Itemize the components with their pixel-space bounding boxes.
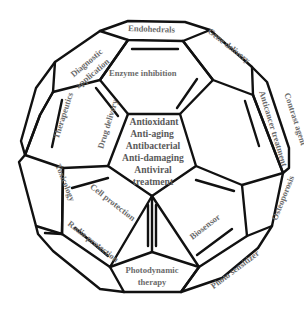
center-line-5: Antiviral [134,164,172,175]
label-gene-delivery: Gene delivery [206,26,253,66]
label-biosensor: Biosensor [188,212,223,242]
center-line-2: Anti-aging [130,128,174,139]
fullerene-diagram: Endohedrals Diagnostic application Gene … [0,0,304,311]
label-cell-protection: Cell protection [88,181,137,223]
center-line-1: Antioxidant [129,116,179,127]
label-osteoporosis: Osteoporosis [269,174,296,222]
label-therapeutics: Therapeutics [51,90,76,140]
label-endohedrals: Endohedrals [128,23,176,35]
center-line-3: Antibacterial [126,140,181,151]
center-text: Antioxidant Anti-aging Antibacterial Ant… [122,116,184,187]
center-line-4: Anti-damaging [122,152,184,163]
label-photodynamic-line2: therapy [138,277,167,287]
label-enzyme-inhibition: Enzyme inhibition [109,68,177,78]
label-photodynamic-line1: Photodynamic [126,265,179,275]
center-line-6: treatment [133,176,174,187]
